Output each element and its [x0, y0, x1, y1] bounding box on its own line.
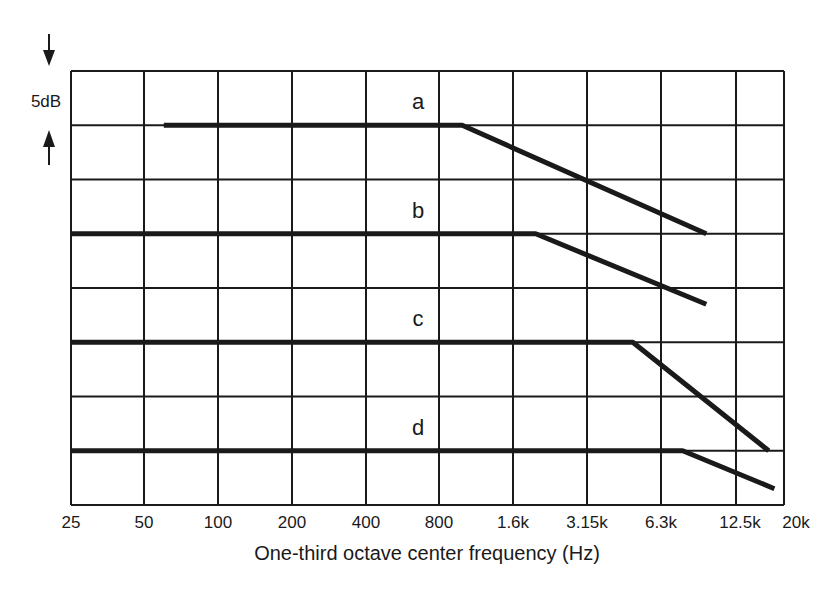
- curve-label-b: b: [412, 198, 424, 223]
- curve-d: [71, 451, 774, 489]
- up-arrow-icon: [43, 130, 55, 165]
- scale-indicator: 5dB: [31, 34, 61, 165]
- x-tick-label: 100: [204, 513, 232, 532]
- x-tick-label: 12.5k: [719, 513, 761, 532]
- scale-label: 5dB: [31, 92, 61, 111]
- x-tick-label: 800: [425, 513, 453, 532]
- chart-grid: [71, 71, 784, 505]
- x-tick-label: 3.15k: [566, 513, 608, 532]
- curve-labels: abcd: [412, 89, 425, 440]
- x-tick-label: 200: [278, 513, 306, 532]
- x-tick-label: 6.3k: [645, 513, 678, 532]
- curve-label-c: c: [413, 306, 424, 331]
- x-axis-tick-labels: 25501002004008001.6k3.15k6.3k12.5k20k: [62, 513, 811, 532]
- curve-b: [71, 234, 706, 304]
- curve-label-a: a: [412, 89, 425, 114]
- x-tick-label: 400: [352, 513, 380, 532]
- x-tick-label: 50: [135, 513, 154, 532]
- x-tick-label: 20k: [782, 513, 810, 532]
- x-axis-label: One-third octave center frequency (Hz): [254, 542, 600, 564]
- x-tick-label: 25: [62, 513, 81, 532]
- x-tick-label: 1.6k: [497, 513, 530, 532]
- down-arrow-icon: [43, 34, 55, 66]
- chart: abcd 25501002004008001.6k3.15k6.3k12.5k2…: [0, 0, 830, 592]
- curve-label-d: d: [412, 415, 424, 440]
